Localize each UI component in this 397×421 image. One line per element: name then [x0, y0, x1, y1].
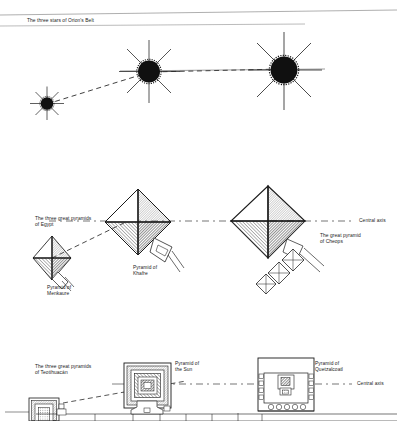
teo-title-line1: The three great pyramids [35, 364, 91, 370]
quetzalcoatl-label-line2: Quetzalcoatl [315, 367, 343, 373]
egypt-title-line2: of Egypt [35, 222, 54, 228]
cheops-label-line2: of Cheops [320, 239, 343, 245]
figure-page: The three stars of Orion's Belt The thre… [0, 0, 397, 421]
avenue-of-the-dead [36, 409, 397, 421]
menkaure-label-line2: Menkaure [47, 291, 69, 297]
khafre-label-line2: Khafre [133, 271, 148, 277]
teo-title-line2: of Teotihuacán [35, 370, 68, 376]
pyramid-of-quetzalcoatl-plan [258, 358, 314, 411]
pyramid-of-the-moon-plan [5, 398, 64, 421]
label-underline-orion [0, 24, 305, 26]
central-axis-teo-label: Central axis [357, 381, 384, 387]
pyramid-cheops [231, 186, 324, 294]
panel-orion [0, 10, 397, 120]
star-left [30, 87, 64, 121]
cheops-label-line1: The great pyramid [320, 233, 361, 239]
star-right-core [271, 57, 298, 84]
menkaure-label-line1: Pyramid of [47, 285, 71, 291]
pyramid-khafre [105, 189, 184, 272]
star-middle-core [138, 61, 160, 83]
star-right [248, 32, 322, 110]
khafre-label-line1: Pyramid of [133, 265, 157, 271]
queens-pyramids [256, 249, 304, 294]
egypt-title-line1: The three great pyramids [35, 216, 91, 222]
pyramid-of-the-sun-plan [112, 363, 171, 414]
pyramid-menkaure [33, 236, 74, 291]
sun-label-line1: Pyramid of [175, 361, 199, 367]
star-left-core [41, 97, 54, 110]
sun-label-line2: the Sun [175, 367, 192, 373]
central-axis-egypt-label: Central axis [359, 218, 386, 224]
figure-canvas [0, 0, 397, 421]
panel-giza [33, 186, 355, 294]
quetzalcoatl-label-line1: Pyramid of [315, 361, 339, 367]
orion-title-label: The three stars of Orion's Belt [27, 18, 94, 24]
star-middle [119, 40, 180, 103]
top-rule [0, 10, 397, 15]
